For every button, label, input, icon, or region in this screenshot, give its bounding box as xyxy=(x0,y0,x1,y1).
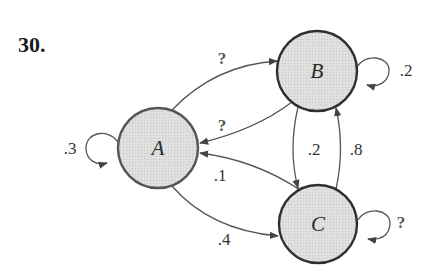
node-a-label: A xyxy=(150,136,165,160)
edge-a-self-loop xyxy=(86,133,118,163)
label-b-to-a: ? xyxy=(218,116,227,135)
label-b-to-c: .2 xyxy=(308,140,321,159)
label-b-self: .2 xyxy=(400,61,413,80)
label-c-to-a: .1 xyxy=(214,166,227,185)
node-a: A xyxy=(118,108,198,188)
edge-a-to-b xyxy=(172,61,277,110)
edge-b-self-loop xyxy=(357,58,389,86)
edge-b-to-a xyxy=(200,102,292,143)
edge-a-to-c xyxy=(172,186,278,236)
label-a-self: .3 xyxy=(64,139,77,158)
markov-transition-diagram: 30. A B C ? ? .3 .2 .2 .8 .1 .4 xyxy=(0,0,435,280)
edge-c-to-b xyxy=(336,108,341,189)
node-b: B xyxy=(277,31,357,111)
node-b-label: B xyxy=(311,59,324,83)
edge-b-to-c xyxy=(293,107,298,188)
label-a-to-c: .4 xyxy=(218,230,231,249)
label-c-to-b: .8 xyxy=(350,140,363,159)
node-c-label: C xyxy=(311,212,326,236)
problem-number: 30. xyxy=(18,32,46,57)
edge-c-self-loop xyxy=(358,211,390,240)
label-c-self: ? xyxy=(397,213,406,232)
node-c: C xyxy=(279,185,357,263)
label-a-to-b: ? xyxy=(218,49,227,68)
